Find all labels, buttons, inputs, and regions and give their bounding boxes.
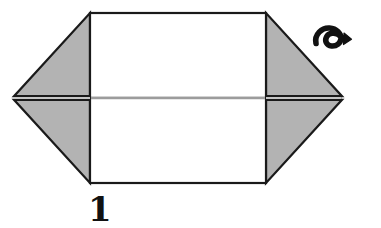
step-number: 1 <box>88 190 128 228</box>
center-panel-upper <box>90 13 266 98</box>
diagram-page: 1 <box>0 0 381 228</box>
origami-diagram <box>0 0 381 228</box>
center-panel-group <box>90 13 266 183</box>
center-panel-lower <box>90 98 266 183</box>
